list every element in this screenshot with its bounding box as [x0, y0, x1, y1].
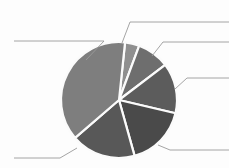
- leader-bottom-right: [158, 145, 229, 150]
- leader-upper-right: [152, 42, 229, 56]
- pie-chart-svg: [0, 0, 229, 168]
- leader-bottom-left: [14, 148, 77, 158]
- leader-right: [175, 78, 229, 89]
- pie-chart-container: [0, 0, 229, 168]
- leader-top-right: [122, 22, 229, 43]
- pie-slices-group: [61, 42, 177, 158]
